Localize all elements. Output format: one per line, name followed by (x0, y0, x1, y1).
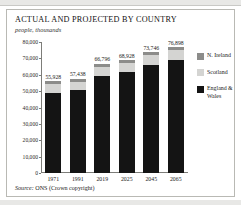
bar-segment-sco[interactable] (94, 67, 110, 76)
y-axis-tick-label: 50,000 (23, 88, 38, 94)
bar-group[interactable]: 76,8982065 (168, 47, 184, 173)
y-axis-tick-mark (39, 42, 41, 43)
bar-segment-ew[interactable] (94, 76, 110, 173)
bar-segment-ew[interactable] (45, 93, 61, 173)
bar-group[interactable]: 55,9281971 (45, 81, 61, 173)
bar-segment-sco[interactable] (119, 63, 135, 72)
y-axis-tick-mark (39, 58, 41, 59)
chart-subtitle: people, thousands (15, 26, 61, 33)
x-axis-tick-label: 1991 (72, 176, 84, 182)
bar-segment-ew[interactable] (119, 72, 135, 173)
y-axis-tick-mark (39, 173, 41, 174)
legend-item-label: England & Wales (207, 85, 237, 100)
bar-total-label: 55,928 (45, 74, 61, 80)
bar-segment-sco[interactable] (143, 55, 159, 64)
bar-segment-sco[interactable] (168, 50, 184, 60)
legend-swatch-sco (197, 69, 204, 76)
bar-segment-sco[interactable] (70, 82, 86, 90)
bar-segment-ew[interactable] (143, 65, 159, 173)
bar-group[interactable]: 73,7462045 (143, 52, 159, 173)
legend-swatch-ew (197, 86, 204, 93)
source-text: ONS (Crown copyright) (35, 185, 94, 191)
bar-segment-sco[interactable] (45, 84, 61, 93)
source-note: Source: ONS (Crown copyright) (15, 185, 95, 191)
y-axis-tick-label: 10,000 (23, 154, 38, 160)
source-label: Source: (15, 185, 34, 191)
bottom-edge-band (0, 200, 241, 205)
legend-item[interactable]: Scotland (197, 69, 237, 77)
legend-item-label: Scotland (207, 69, 228, 77)
chart-legend: N. IrelandScotlandEngland & Wales (197, 52, 237, 109)
bar-total-label: 66,796 (94, 56, 110, 62)
y-axis-tick-label: 40,000 (23, 105, 38, 111)
bar-group[interactable]: 66,7962019 (94, 64, 110, 173)
bar-total-label: 68,928 (119, 53, 135, 59)
y-axis-tick-mark (39, 91, 41, 92)
y-axis-tick-mark (39, 108, 41, 109)
x-axis-tick-label: 2065 (170, 176, 182, 182)
y-axis-tick-label: 0 (35, 170, 38, 176)
bar-total-label: 73,746 (143, 45, 159, 51)
x-axis-tick-label: 2045 (145, 176, 157, 182)
x-axis-tick-label: 2019 (96, 176, 108, 182)
x-axis-tick-label: 2025 (121, 176, 133, 182)
bar-segment-ew[interactable] (70, 90, 86, 173)
y-axis-tick-label: 20,000 (23, 137, 38, 143)
bar-segment-ew[interactable] (168, 60, 184, 173)
y-axis-tick-label: 70,000 (23, 55, 38, 61)
chart-panel: ACTUAL AND PROJECTED BY COUNTRY people, … (6, 9, 235, 197)
y-axis-tick-mark (39, 157, 41, 158)
chart-title: ACTUAL AND PROJECTED BY COUNTRY (15, 15, 177, 24)
legend-item[interactable]: England & Wales (197, 85, 237, 100)
y-axis-tick-label: 30,000 (23, 121, 38, 127)
y-axis-tick-label: 60,000 (23, 72, 38, 78)
legend-item[interactable]: N. Ireland (197, 52, 237, 60)
y-axis-tick-mark (39, 140, 41, 141)
plot-area: 80,00070,00060,00050,00040,00030,00020,0… (41, 42, 188, 173)
top-divider-rule (0, 5, 241, 6)
y-axis-tick-label: 80,000 (23, 39, 38, 45)
legend-item-label: N. Ireland (207, 52, 231, 60)
x-axis-line (41, 172, 188, 173)
bar-total-label: 76,898 (168, 40, 184, 46)
x-axis-tick-label: 1971 (47, 176, 59, 182)
y-axis-tick-mark (39, 75, 41, 76)
bar-group[interactable]: 57,4381991 (70, 79, 86, 173)
y-axis-tick-mark (39, 124, 41, 125)
legend-swatch-ni (197, 53, 204, 60)
chart-figure: ACTUAL AND PROJECTED BY COUNTRY people, … (0, 0, 241, 205)
bar-group[interactable]: 68,9282025 (119, 60, 135, 173)
y-axis-line (41, 42, 42, 173)
bar-total-label: 57,438 (70, 71, 86, 77)
